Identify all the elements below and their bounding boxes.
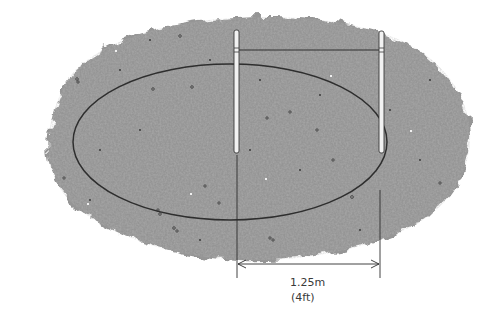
ground-area <box>20 5 490 275</box>
dimension-metric-label: 1.25m <box>290 276 325 289</box>
right-stake <box>379 31 384 153</box>
left-stake <box>234 30 239 153</box>
oval-bed-diagram <box>0 0 499 315</box>
dimension-imperial-label: (4ft) <box>291 291 315 304</box>
